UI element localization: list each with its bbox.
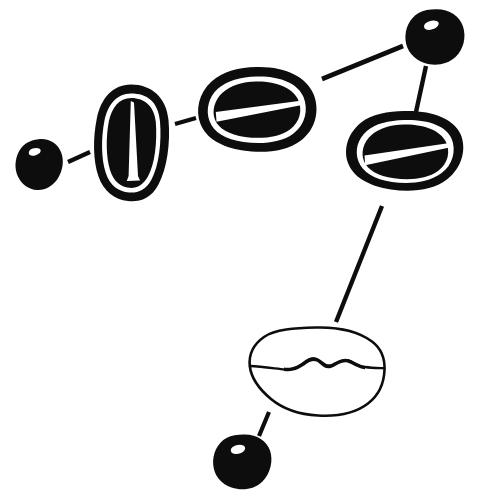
blob-bottom-body — [213, 434, 271, 489]
node-blob-bottom — [213, 434, 271, 489]
diagram-svg — [0, 0, 477, 497]
node-blob-top-right — [405, 9, 464, 64]
figure-canvas: Hand-drawn sequence of ovoid cell-like f… — [0, 0, 477, 497]
blob-top-right-body — [405, 9, 464, 64]
